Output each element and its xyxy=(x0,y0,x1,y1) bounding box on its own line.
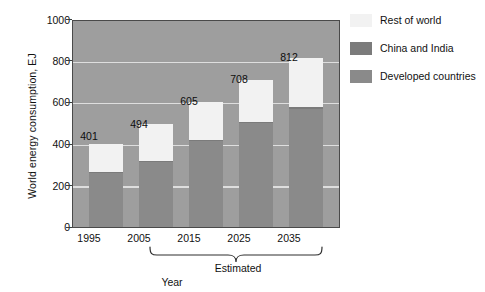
bar-segment-china-india-2025 xyxy=(239,122,273,123)
bar-segment-developed-2035 xyxy=(289,109,323,228)
bar-value-label-1995: 401 xyxy=(59,130,119,142)
bar-value-label-2005: 494 xyxy=(109,118,169,130)
y-axis-title: World energy consumption, EJ xyxy=(26,31,38,221)
bar-segment-developed-2015 xyxy=(189,141,223,227)
legend-label-developed-countries: Developed countries xyxy=(380,70,476,82)
bar-segment-china-india-2035 xyxy=(289,107,323,108)
bar-segment-china-india-1995 xyxy=(89,172,123,173)
bar-segment-rest-of-world-2015 xyxy=(189,102,223,140)
bar-segment-china-india-2005 xyxy=(139,161,173,162)
legend-swatch-rest-of-world xyxy=(350,14,372,27)
legend-label-china-and-india: China and India xyxy=(380,42,454,54)
legend-swatch-developed-countries xyxy=(350,70,372,83)
estimated-annotation-label: Estimated xyxy=(168,262,308,274)
bar-value-label-2035: 812 xyxy=(259,51,319,63)
bar-value-label-2015: 605 xyxy=(159,95,219,107)
x-axis-title: Year xyxy=(142,276,202,288)
bar-segment-rest-of-world-2035 xyxy=(289,58,323,107)
bar-value-label-2025: 708 xyxy=(209,73,269,85)
bar-segment-developed-1995 xyxy=(89,173,123,227)
legend-label-rest-of-world: Rest of world xyxy=(380,14,441,26)
x-tick-label-2035: 2035 xyxy=(259,232,319,244)
bar-segment-china-india-2015 xyxy=(189,140,223,141)
legend-swatch-china-and-india xyxy=(350,42,372,55)
bar-segment-rest-of-world-1995 xyxy=(89,144,123,172)
bar-segment-developed-2025 xyxy=(239,123,273,227)
chart-figure: World energy consumption, EJ 1000 800 60… xyxy=(0,0,485,292)
bar-segment-developed-2005 xyxy=(139,162,173,227)
bar-segment-rest-of-world-2025 xyxy=(239,80,273,122)
